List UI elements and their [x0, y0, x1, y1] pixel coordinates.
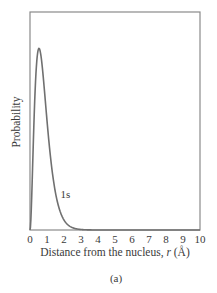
series-line-1s: [30, 48, 200, 230]
x-axis-label-unit: (Å): [171, 245, 190, 259]
x-tick-label: 4: [95, 233, 101, 245]
x-tick-label: 7: [146, 233, 152, 245]
x-axis-label-prefix: Distance from the nucleus,: [40, 246, 166, 259]
x-axis-tick-labels: 012345678910: [27, 233, 206, 245]
figure-caption: (a): [110, 272, 123, 285]
x-tick-label: 3: [78, 233, 84, 245]
x-tick-label: 8: [163, 233, 169, 245]
x-tick-label: 10: [195, 233, 207, 245]
y-axis-label: Probability: [10, 96, 23, 147]
x-axis-label: Distance from the nucleus, r (Å): [40, 245, 190, 259]
x-tick-label: 5: [112, 233, 118, 245]
series-label-1s: 1s: [61, 188, 71, 200]
x-tick-label: 1: [44, 233, 50, 245]
plot-frame: [30, 12, 200, 230]
x-tick-label: 6: [129, 233, 135, 245]
chart: 1s 012345678910 Distance from the nucleu…: [0, 0, 217, 293]
x-tick-label: 0: [27, 233, 33, 245]
x-tick-label: 2: [61, 233, 67, 245]
x-tick-label: 9: [180, 233, 186, 245]
